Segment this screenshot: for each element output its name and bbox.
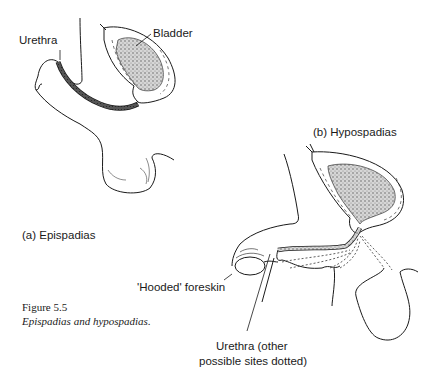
hooded-foreskin-label: 'Hooded' foreskin [137, 281, 225, 293]
figure-canvas: Urethra Bladder (a) Epispadias (b) Hypos… [0, 0, 427, 382]
hypospadias-drawing [224, 144, 418, 340]
urethra-label-b-line2: possible sites dotted) [199, 355, 307, 367]
figure-caption: Epispadias and hypospadias. [22, 315, 151, 327]
figure-number: Figure 5.5 [22, 301, 67, 313]
panel-a-title: (a) Epispadias [22, 229, 96, 241]
bladder-label: Bladder [153, 27, 193, 39]
urethra-label-a: Urethra [19, 34, 57, 46]
panel-b-title: (b) Hypospadias [313, 126, 397, 138]
urethra-label-b-line1: Urethra (other [216, 340, 288, 352]
